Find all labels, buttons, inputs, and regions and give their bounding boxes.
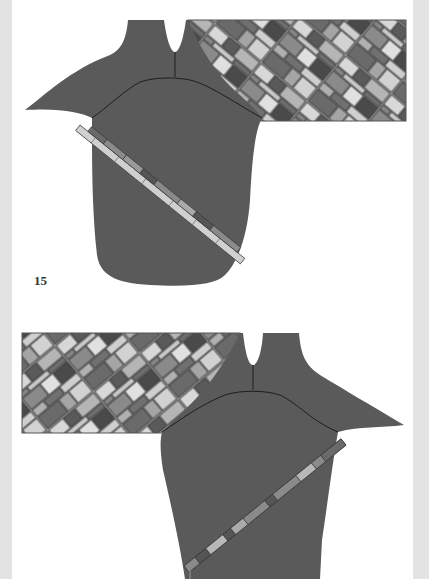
figure-top [25,20,406,286]
illustrations [0,0,429,579]
figure-bottom [22,333,404,579]
figure-number: 15 [34,273,47,289]
